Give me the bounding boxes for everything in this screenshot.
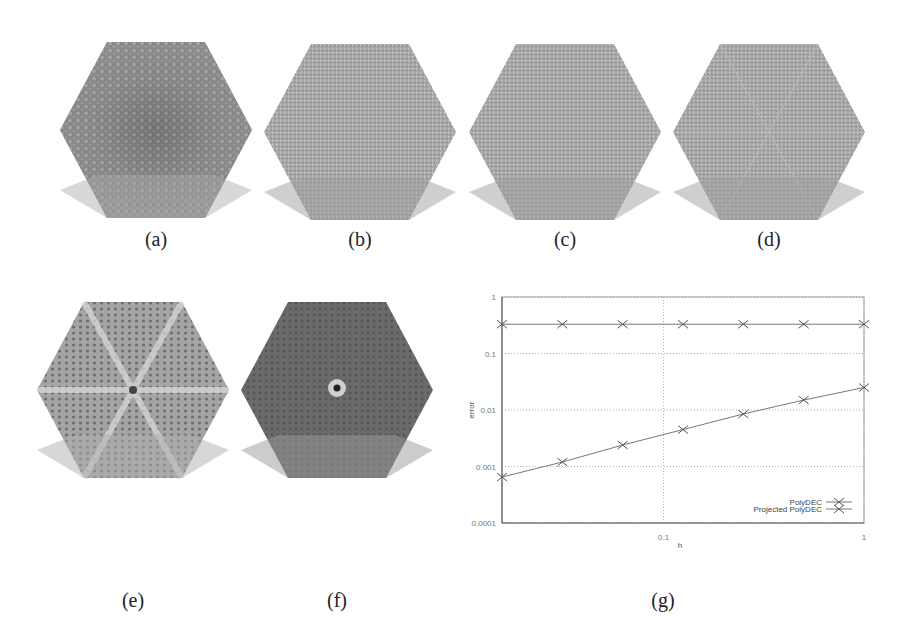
x-tick-label: 0.1 [658,533,670,542]
data-marker-x [799,396,809,404]
y-tick-label: 0.1 [485,350,497,359]
y-tick-label: 0.0001 [472,519,497,528]
data-marker-x [618,441,628,449]
legend-label: Projected PolyDEC [754,505,823,514]
error-convergence-chart: 0.00010.0010.010.110.11herrorPolyDECProj… [0,0,901,629]
y-tick-label: 1 [492,293,497,302]
y-tick-label: 0.01 [480,406,496,415]
data-marker-x [678,426,688,434]
x-axis-label: h [678,541,682,550]
data-marker-x [557,458,567,466]
y-axis-label: error [467,401,476,418]
y-tick-label: 0.001 [476,463,497,472]
data-marker-x [738,410,748,418]
series-line-1 [502,388,864,478]
x-tick-label: 1 [862,533,867,542]
